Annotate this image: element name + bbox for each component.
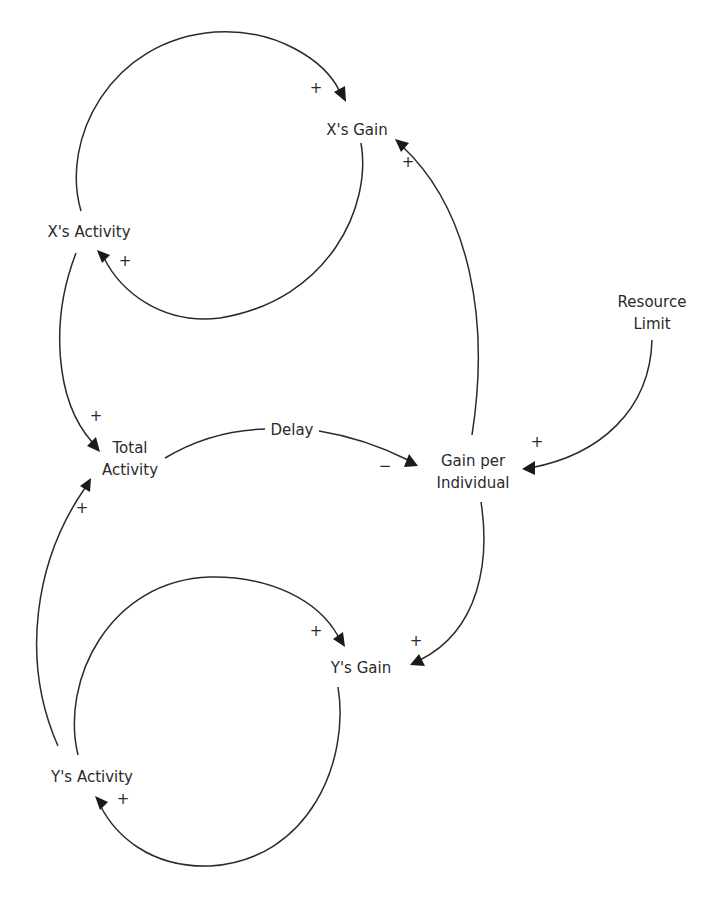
polarity-xact-to-total: + <box>90 407 103 425</box>
node-x-gain: X's Gain <box>326 121 387 139</box>
link-resource-to-gain-per-individual <box>522 340 652 475</box>
arrowhead-icon <box>95 796 108 810</box>
node-total-activity-line2: Activity <box>102 461 158 479</box>
node-x-activity: X's Activity <box>47 223 130 241</box>
link-yactivity-to-total <box>37 478 91 746</box>
polarity-xact-to-xgain: + <box>310 79 323 97</box>
delay-label: Delay <box>270 421 313 439</box>
polarity-gpi-to-xgain: + <box>402 153 415 171</box>
polarity-yact-to-ygain: + <box>310 622 323 640</box>
arrowhead-icon <box>404 454 418 467</box>
arrowhead-icon <box>522 461 535 475</box>
node-resource-limit-line1: Resource <box>618 293 687 311</box>
polarity-resource-to-gpi: + <box>531 433 544 451</box>
node-total-activity-line1: Total <box>111 439 147 457</box>
polarity-gpi-to-ygain: + <box>410 632 423 650</box>
polarity-yact-to-total: + <box>76 499 89 517</box>
node-y-gain: Y's Gain <box>330 659 391 677</box>
link-xactivity-to-xgain <box>76 32 346 211</box>
arrowhead-icon <box>80 478 91 492</box>
node-resource-limit-line2: Limit <box>633 315 670 333</box>
polarity-xgain-to-xact: + <box>119 252 132 270</box>
arrowhead-icon <box>334 86 346 102</box>
node-gain-per-individual-line1: Gain per <box>441 452 506 470</box>
arrowhead-icon <box>97 250 110 263</box>
arrowhead-icon <box>333 632 345 647</box>
polarity-ygain-to-yact: + <box>117 790 130 808</box>
link-gpi-to-xgain <box>395 139 478 435</box>
link-xgain-to-xactivity <box>97 143 363 319</box>
arrowhead-icon <box>410 654 425 666</box>
link-yactivity-to-ygain <box>74 577 345 755</box>
causal-loop-diagram: X's Gain X's Activity Total Activity Del… <box>0 0 716 901</box>
node-gain-per-individual-line2: Individual <box>436 474 509 492</box>
polarity-total-to-gpi: − <box>379 457 392 475</box>
node-y-activity: Y's Activity <box>50 768 133 786</box>
